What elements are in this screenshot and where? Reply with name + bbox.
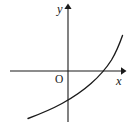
y-axis-label: y xyxy=(55,2,63,16)
x-axis-label: x xyxy=(115,74,122,88)
coordinate-plot-svg: y x O xyxy=(0,0,132,126)
y-axis-arrowhead xyxy=(64,4,71,10)
exponential-curve xyxy=(28,36,123,119)
graph-figure: y x O xyxy=(0,0,132,126)
x-axis-arrowhead xyxy=(121,67,127,74)
origin-label: O xyxy=(55,73,63,85)
